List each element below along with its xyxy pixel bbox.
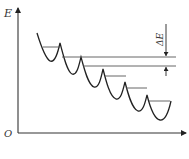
delta-e-marker: ΔE bbox=[155, 24, 166, 76]
delta-e-label: ΔE bbox=[155, 33, 165, 47]
y-axis-label: E bbox=[3, 7, 12, 20]
origin-label: O bbox=[4, 128, 12, 139]
potential-curve bbox=[37, 33, 171, 120]
energy-diagram: E O ΔE bbox=[0, 0, 189, 159]
axes bbox=[18, 8, 186, 133]
